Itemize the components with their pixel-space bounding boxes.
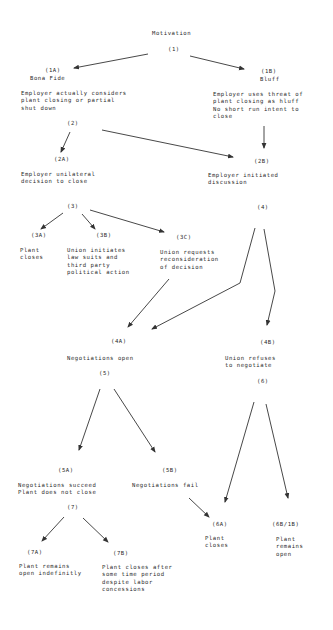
node-5-id: (5): [99, 370, 111, 377]
arrow-3-to-3A: [41, 213, 63, 229]
node-2B-id: (2B): [254, 158, 270, 165]
arrow-1-to-1A: [74, 54, 148, 68]
node-4A-text: Negotiations open: [67, 355, 134, 362]
arrow-2-to-2B: [102, 130, 233, 157]
node-4B-text: Union refuses to negotiate: [225, 355, 276, 370]
arrow-4-to-4B: [264, 229, 275, 325]
node-3B-id: (3B): [96, 232, 112, 239]
node-1B-label: Bluff: [260, 76, 280, 83]
node-6-id: (6): [257, 378, 269, 385]
arrow-7-to-7A: [42, 517, 64, 541]
node-1A-label: Bona Fide: [30, 75, 65, 82]
arrow-4-to-4A: [152, 228, 255, 329]
arrow-6-to-6A: [225, 402, 254, 502]
node-7A-id: (7A): [27, 549, 43, 556]
node-3A-text: Plant closes: [20, 247, 44, 262]
node-2A-id: (2A): [54, 156, 70, 163]
arrow-1-to-1B: [190, 56, 244, 69]
node-5A-id: (5A): [58, 467, 74, 474]
root-title: Motivation: [152, 30, 191, 37]
node-1B-text: Employer uses threat of plant closing as…: [213, 91, 303, 121]
arrow-5B-to-6A: [189, 498, 209, 517]
node-1A-id: (1A): [45, 67, 61, 74]
node-7B-id: (7B): [113, 550, 129, 557]
arrow-3-to-3C: [90, 210, 164, 232]
node-3C-text: Union requests reconsideration of decisi…: [160, 249, 219, 271]
node-1A-text: Employer actually considers plant closin…: [21, 90, 127, 112]
node-2B-text: Employer initiated discussion: [208, 172, 279, 187]
node-6B-text: Plant remains open: [276, 536, 303, 558]
arrow-6-to-6B: [266, 404, 288, 498]
root-id: (1): [168, 46, 180, 53]
node-2A-text: Employer unilateral decision to close: [21, 171, 95, 186]
node-4A-id: (4A): [111, 338, 127, 345]
node-6A-id: (6A): [212, 521, 228, 528]
node-1B-id: (1B): [261, 68, 277, 75]
arrow-3-to-3B: [82, 214, 95, 229]
arrow-7-to-7B: [83, 518, 108, 542]
arrow-2-to-2A: [61, 132, 70, 152]
node-7A-text: Plant remains open indefinitly: [19, 563, 82, 578]
node-7B-text: Plant closes after some time period desp…: [102, 564, 173, 594]
node-4-id: (4): [257, 204, 269, 211]
node-3-id: (3): [67, 203, 79, 210]
node-2-id: (2): [67, 120, 79, 127]
node-4B-id: (4B): [260, 339, 276, 346]
node-6A-text: Plant closes: [205, 535, 229, 550]
arrow-3C-to-4A: [128, 279, 169, 327]
node-5B-text: Negotiations fail: [132, 482, 199, 489]
node-3C-id: (3C): [176, 234, 192, 241]
node-3A-id: (3A): [31, 232, 47, 239]
node-5A-text: Negotiations succeed Plant does not clos…: [18, 482, 96, 497]
arrow-5-to-5B: [114, 389, 155, 452]
node-3B-text: Union initiates law suits and third part…: [67, 247, 130, 277]
node-7-id: (7): [67, 504, 79, 511]
arrow-5-to-5A: [79, 389, 100, 450]
node-5B-id: (5B): [162, 467, 178, 474]
node-6B-id: (6B/1B): [272, 521, 299, 528]
